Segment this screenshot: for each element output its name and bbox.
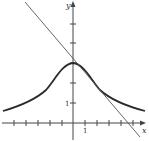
bell-curve (3, 63, 145, 111)
y-axis-arrow-icon (71, 1, 76, 7)
x-axis-label: x (142, 126, 147, 135)
y-axis-label: y (65, 1, 71, 10)
tangent-line (25, 2, 140, 137)
x-axis-arrow-icon (140, 121, 146, 126)
x-tick-label-1: 1 (83, 127, 87, 135)
y-tick-label-1: 1 (65, 100, 69, 108)
graph-figure: y x 1 1 (0, 0, 149, 141)
